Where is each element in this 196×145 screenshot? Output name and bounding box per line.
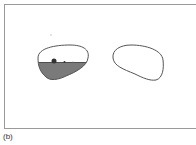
faint-mark (50, 34, 52, 36)
left-lens (36, 45, 92, 85)
lens-diagram (0, 0, 196, 145)
bubble-small (64, 61, 66, 63)
right-lens-outline (113, 45, 163, 80)
right-lens (113, 45, 163, 80)
bubble-large (52, 59, 57, 64)
figure-caption: (b) (3, 132, 13, 141)
bubble-tiny (72, 61, 73, 62)
